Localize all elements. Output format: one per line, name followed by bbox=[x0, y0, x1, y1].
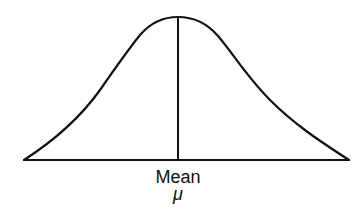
bell-curve-diagram: Mean μ bbox=[0, 0, 364, 223]
mu-symbol: μ bbox=[172, 184, 183, 204]
bell-curve bbox=[24, 17, 349, 160]
